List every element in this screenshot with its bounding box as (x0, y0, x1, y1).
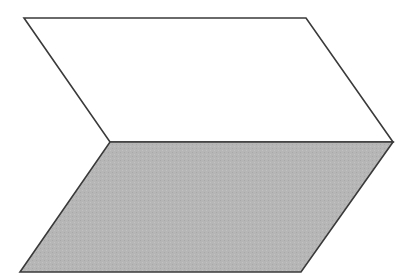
diagram-svg (0, 0, 412, 280)
upper-parallelogram (24, 18, 393, 142)
diagram-canvas (0, 0, 412, 280)
lower-parallelogram (20, 142, 393, 272)
